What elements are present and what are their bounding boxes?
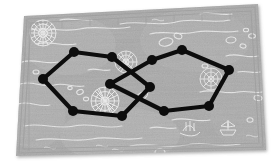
graph-scene [0, 0, 274, 168]
graph-node[interactable] [147, 55, 157, 65]
graph-node[interactable] [159, 106, 169, 116]
graph-node[interactable] [117, 111, 127, 121]
map-contents [0, 0, 274, 168]
graph-node[interactable] [68, 106, 78, 116]
graph-node[interactable] [105, 79, 115, 89]
graph-node[interactable] [69, 47, 79, 57]
graph-node[interactable] [38, 74, 48, 84]
graph-node[interactable] [107, 52, 117, 62]
paper-grain-texture [0, 0, 274, 168]
canvas [0, 0, 274, 168]
graph-node[interactable] [145, 82, 155, 92]
graph-node[interactable] [177, 45, 187, 55]
graph-node[interactable] [204, 101, 214, 111]
graph-node[interactable] [224, 65, 234, 75]
